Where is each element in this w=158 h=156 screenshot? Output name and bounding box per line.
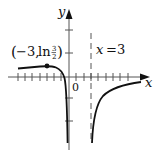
svg-text:): ) bbox=[57, 43, 63, 61]
svg-text:3: 3 bbox=[52, 45, 56, 53]
svg-text:−3,: −3, bbox=[16, 44, 39, 59]
point-label: ( −3, ln 3 2 ) bbox=[11, 43, 63, 61]
asymptote-label: x = 3 bbox=[96, 42, 125, 57]
svg-text:3: 3 bbox=[117, 42, 125, 57]
y-axis-arrow-icon bbox=[66, 9, 73, 19]
y-axis-label: y bbox=[57, 4, 66, 19]
curve-right-branch bbox=[92, 82, 141, 143]
svg-text:x: x bbox=[96, 42, 104, 57]
x-axis-label: x bbox=[145, 75, 153, 90]
svg-text:=: = bbox=[106, 42, 117, 57]
svg-text:ln: ln bbox=[38, 44, 51, 59]
point-marker bbox=[45, 64, 50, 69]
function-graph: y x 0 x = 3 ( −3, ln 3 2 ) bbox=[0, 0, 158, 156]
origin-label: 0 bbox=[72, 81, 79, 94]
svg-text:2: 2 bbox=[52, 53, 56, 61]
